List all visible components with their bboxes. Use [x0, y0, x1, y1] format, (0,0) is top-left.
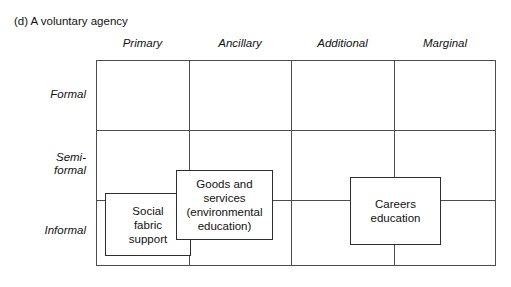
- concept-box-goods-and-services[interactable]: Goods and services (environmental educat…: [176, 170, 273, 240]
- row-label-informal: Informal: [0, 224, 86, 237]
- row-label-semi-formal: Semi- formal: [0, 151, 86, 177]
- concept-box-careers-education[interactable]: Careers education: [350, 177, 441, 245]
- grid-vertical-line-2: [291, 61, 292, 265]
- figure-root: (d) A voluntary agency Primary Ancillary…: [0, 0, 511, 287]
- row-label-formal: Formal: [0, 88, 86, 101]
- column-header-marginal: Marginal: [394, 36, 496, 50]
- column-header-ancillary: Ancillary: [189, 36, 291, 50]
- figure-caption: (d) A voluntary agency: [14, 14, 128, 28]
- column-header-primary: Primary: [96, 36, 189, 50]
- column-header-additional: Additional: [291, 36, 394, 50]
- grid-horizontal-line-1: [97, 130, 495, 131]
